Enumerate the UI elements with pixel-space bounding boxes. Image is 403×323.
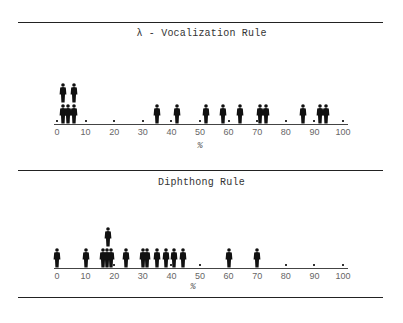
person-icon bbox=[59, 83, 67, 103]
person-icon bbox=[70, 104, 78, 124]
person-icon bbox=[262, 104, 270, 124]
person-icon bbox=[170, 248, 178, 268]
person-icon bbox=[153, 248, 161, 268]
person-icon bbox=[143, 248, 151, 268]
x-tick-label: 20 bbox=[109, 271, 119, 281]
x-tick-label: 80 bbox=[281, 271, 291, 281]
person-icon bbox=[225, 248, 233, 268]
person-icon bbox=[162, 248, 170, 268]
x-tick-label: 30 bbox=[138, 271, 148, 281]
person-icon bbox=[70, 83, 78, 103]
x-tick-label: 90 bbox=[309, 271, 319, 281]
x-tick-mark bbox=[228, 120, 230, 122]
x-tick-label: 80 bbox=[281, 127, 291, 137]
x-tick-label: 10 bbox=[81, 271, 91, 281]
x-tick-label: 30 bbox=[138, 127, 148, 137]
x-tick-mark bbox=[285, 120, 287, 122]
person-icon bbox=[322, 104, 330, 124]
x-tick-label: 0 bbox=[54, 127, 59, 137]
x-tick-mark bbox=[113, 120, 115, 122]
x-tick-label: 10 bbox=[81, 127, 91, 137]
x-tick-label: 0 bbox=[54, 271, 59, 281]
x-tick-label: 60 bbox=[224, 271, 234, 281]
x-tick-label: 70 bbox=[252, 271, 262, 281]
person-icon bbox=[202, 104, 210, 124]
x-tick-mark bbox=[199, 120, 201, 122]
x-tick-mark bbox=[285, 264, 287, 266]
person-icon bbox=[179, 248, 187, 268]
person-icon bbox=[153, 104, 161, 124]
person-icon bbox=[107, 248, 115, 268]
x-tick-mark bbox=[56, 120, 58, 122]
x-axis-line bbox=[54, 268, 348, 269]
person-icon bbox=[53, 248, 61, 268]
bottom-rule bbox=[18, 297, 383, 298]
x-tick-label: 20 bbox=[109, 127, 119, 137]
chart-title: Diphthong Rule bbox=[0, 177, 403, 188]
x-tick-label: 90 bbox=[309, 127, 319, 137]
person-icon bbox=[253, 248, 261, 268]
x-tick-mark bbox=[199, 264, 201, 266]
person-icon bbox=[122, 248, 130, 268]
person-icon bbox=[104, 227, 112, 247]
top-rule bbox=[18, 22, 383, 23]
x-tick-label: 40 bbox=[166, 271, 176, 281]
x-tick-label: 60 bbox=[224, 127, 234, 137]
x-tick-mark bbox=[170, 120, 172, 122]
middle-rule bbox=[18, 170, 383, 171]
axis-x-label: % bbox=[197, 141, 202, 151]
person-icon bbox=[299, 104, 307, 124]
x-tick-mark bbox=[313, 120, 315, 122]
axis-x-label: % bbox=[190, 282, 195, 292]
x-tick-mark bbox=[342, 264, 344, 266]
x-tick-mark bbox=[313, 264, 315, 266]
x-tick-mark bbox=[142, 120, 144, 122]
chart-title: λ - Vocalization Rule bbox=[0, 28, 403, 39]
person-icon bbox=[82, 248, 90, 268]
x-tick-label: 50 bbox=[195, 271, 205, 281]
person-icon bbox=[173, 104, 181, 124]
x-axis-line bbox=[54, 124, 348, 125]
person-icon bbox=[236, 104, 244, 124]
x-tick-label: 50 bbox=[195, 127, 205, 137]
person-icon bbox=[219, 104, 227, 124]
x-tick-mark bbox=[342, 120, 344, 122]
x-tick-label: 40 bbox=[166, 127, 176, 137]
x-tick-mark bbox=[85, 120, 87, 122]
x-tick-label: 100 bbox=[335, 271, 350, 281]
x-tick-label: 100 bbox=[335, 127, 350, 137]
x-tick-label: 70 bbox=[252, 127, 262, 137]
